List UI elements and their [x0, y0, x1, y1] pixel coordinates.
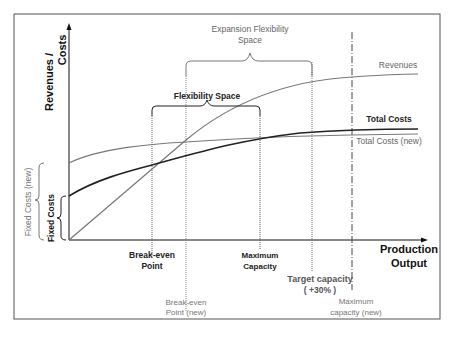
revenues-label: Revenues — [379, 60, 417, 70]
max-capacity-label-line2: Capacity — [243, 262, 277, 271]
expansion-flexibility-label-line1: Expansion Flexibility — [211, 24, 289, 34]
fixed-costs-new-brace — [35, 163, 44, 240]
max-capacity-new-label-line2: capacity (new) — [330, 308, 382, 317]
flexibility-space-label: Flexibility Space — [174, 91, 241, 101]
x-axis — [69, 238, 428, 243]
flexibility-space-brace — [152, 100, 260, 116]
x-axis-label-line1: Production — [380, 243, 438, 255]
break-even-label-line1: Break-even — [129, 250, 175, 260]
fixed-costs-new-label: Fixed Costs (new) — [23, 168, 33, 237]
y-axis-label-line1: Revenues / — [43, 53, 55, 111]
break-even-new-label-line2: Point (new) — [166, 308, 207, 317]
total-costs-label: Total Costs — [366, 114, 412, 124]
break-even-diagram: Revenues / Costs Fixed Costs Fixed Costs… — [0, 0, 453, 337]
y-axis-label-line2: Costs — [56, 35, 68, 66]
expansion-flexibility-label-line2: Space — [238, 35, 262, 45]
max-capacity-label-line1: Maximum — [242, 251, 279, 260]
x-axis-arrow-icon — [421, 238, 428, 243]
max-capacity-new-label-line1: Maximum — [339, 297, 374, 306]
target-capacity-label-line2: ( +30% ) — [304, 285, 337, 295]
target-capacity-label-line1: Target capacity — [287, 274, 352, 284]
y-axis-arrow-icon — [67, 23, 72, 30]
expansion-flexibility-brace — [186, 53, 312, 76]
diagram-frame — [14, 14, 440, 319]
break-even-new-label-line1: Break-even — [166, 298, 207, 307]
total-costs-new-label: Total Costs (new) — [356, 136, 422, 146]
revenues-curve — [69, 74, 418, 240]
fixed-costs-label: Fixed Costs — [46, 194, 56, 242]
x-axis-label-line2: Output — [391, 257, 427, 269]
fixed-costs-brace — [57, 196, 66, 240]
break-even-label-line2: Point — [141, 261, 162, 271]
